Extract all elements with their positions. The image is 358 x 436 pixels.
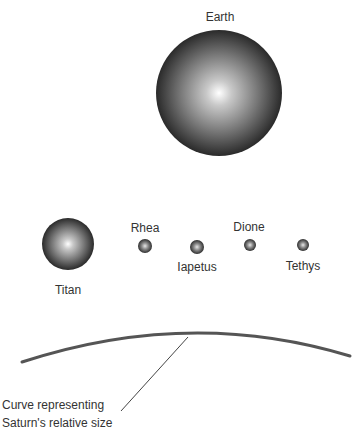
dione-label: Dione bbox=[233, 220, 265, 234]
titan-label: Titan bbox=[55, 283, 81, 297]
rhea-label: Rhea bbox=[131, 221, 160, 235]
earth-sphere bbox=[156, 30, 282, 156]
leader-line bbox=[121, 337, 188, 411]
tethys-sphere bbox=[297, 239, 309, 251]
titan-sphere bbox=[42, 218, 94, 270]
earth-label: Earth bbox=[206, 10, 235, 24]
iapetus-sphere bbox=[190, 240, 204, 254]
rhea-sphere bbox=[138, 239, 152, 253]
saturn-curve bbox=[22, 333, 350, 362]
caption-line-1: Curve representing bbox=[2, 398, 104, 412]
caption-line-2: Saturn's relative size bbox=[2, 416, 113, 430]
diagram-canvas: Earth Titan Rhea Iapetus Dione Tethys Cu… bbox=[0, 0, 358, 436]
dione-sphere bbox=[244, 239, 256, 251]
iapetus-label: Iapetus bbox=[177, 260, 216, 274]
tethys-label: Tethys bbox=[286, 259, 321, 273]
